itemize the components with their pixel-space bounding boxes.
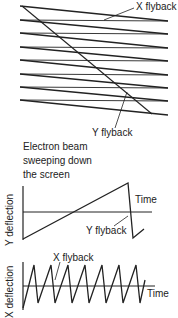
x-flyback-label: X flyback bbox=[136, 1, 177, 13]
x-graph-flyback-label: X flyback bbox=[53, 252, 94, 264]
y-deflection-axis-label: Y deflection bbox=[4, 194, 15, 246]
raster-caption: Electron beam sweeping down the screen bbox=[23, 140, 92, 182]
caption-line: the screen bbox=[23, 168, 92, 182]
x-deflection-axis-label: X deflection bbox=[4, 266, 15, 318]
y-graph-flyback-label: Y flyback bbox=[86, 225, 126, 237]
caption-line: sweeping down bbox=[23, 154, 92, 168]
x-graph-time-label: Time bbox=[147, 288, 169, 300]
y-graph-time-label: Time bbox=[135, 194, 157, 206]
caption-line: Electron beam bbox=[23, 140, 92, 154]
y-flyback-label: Y flyback bbox=[92, 127, 132, 139]
